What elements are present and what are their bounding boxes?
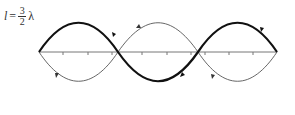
arrow-icon xyxy=(112,32,116,37)
arrow-icon xyxy=(136,24,141,28)
arrow-icon xyxy=(55,73,59,78)
standing-wave-diagram xyxy=(0,0,295,115)
arrow-icon xyxy=(211,74,215,79)
